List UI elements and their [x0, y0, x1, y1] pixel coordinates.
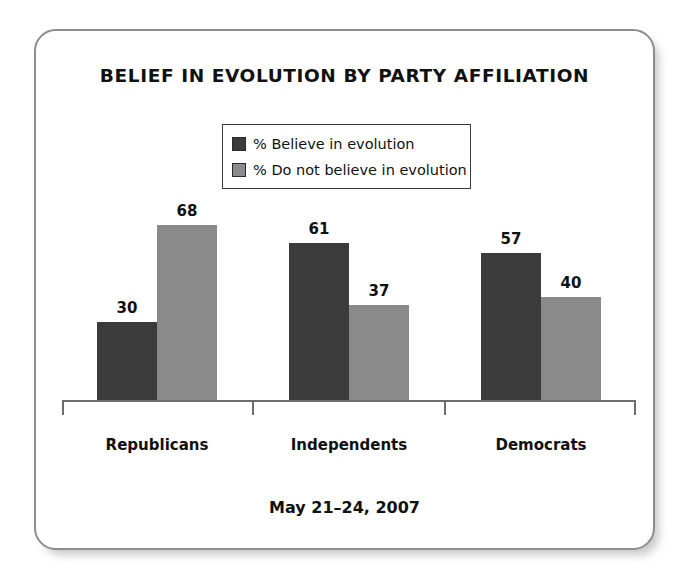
category-label-republicans: Republicans [97, 436, 217, 454]
legend-item-believe: % Believe in evolution [232, 131, 470, 157]
axis-tick-3 [634, 402, 636, 415]
bar-group-republicans: 30 68 [97, 202, 217, 400]
legend-label-believe: % Believe in evolution [253, 137, 415, 152]
category-label-independents: Independents [289, 436, 409, 454]
legend-swatch-believe-icon [232, 137, 246, 151]
bar-value-independents-believe: 61 [309, 222, 330, 237]
bar-rect-democrats-believe[interactable] [481, 253, 541, 400]
plot-area: 30 68 61 37 57 [62, 202, 636, 432]
bar-rect-republicans-not-believe[interactable] [157, 225, 217, 400]
bar-value-independents-not-believe: 37 [369, 284, 390, 299]
bar-rect-democrats-not-believe[interactable] [541, 297, 601, 400]
chart-title: BELIEF IN EVOLUTION BY PARTY AFFILIATION [36, 65, 653, 86]
bar-group-democrats: 57 40 [481, 202, 601, 400]
bar-value-republicans-not-believe: 68 [177, 204, 198, 219]
legend-swatch-not-believe-icon [232, 163, 246, 177]
bar-republicans-not-believe[interactable]: 68 [157, 202, 217, 400]
bar-democrats-not-believe[interactable]: 40 [541, 202, 601, 400]
chart-footer-date: May 21–24, 2007 [36, 498, 653, 517]
x-axis-line [62, 400, 636, 402]
chart-legend: % Believe in evolution % Do not believe … [222, 124, 471, 189]
bar-rect-republicans-believe[interactable] [97, 322, 157, 400]
bar-group-independents: 61 37 [289, 202, 409, 400]
bar-value-democrats-not-believe: 40 [561, 276, 582, 291]
axis-tick-spacer [62, 402, 64, 415]
axis-tick-1 [252, 402, 254, 415]
bar-democrats-believe[interactable]: 57 [481, 202, 541, 400]
bar-independents-not-believe[interactable]: 37 [349, 202, 409, 400]
chart-frame: BELIEF IN EVOLUTION BY PARTY AFFILIATION… [34, 29, 655, 550]
legend-item-not-believe: % Do not believe in evolution [232, 157, 470, 183]
bar-rect-independents-believe[interactable] [289, 243, 349, 400]
bar-republicans-believe[interactable]: 30 [97, 202, 157, 400]
bar-rect-independents-not-believe[interactable] [349, 305, 409, 400]
category-label-democrats: Democrats [481, 436, 601, 454]
bar-value-democrats-believe: 57 [501, 232, 522, 247]
bar-independents-believe[interactable]: 61 [289, 202, 349, 400]
axis-tick-2 [444, 402, 446, 415]
bar-value-republicans-believe: 30 [117, 301, 138, 316]
legend-label-not-believe: % Do not believe in evolution [253, 163, 467, 178]
